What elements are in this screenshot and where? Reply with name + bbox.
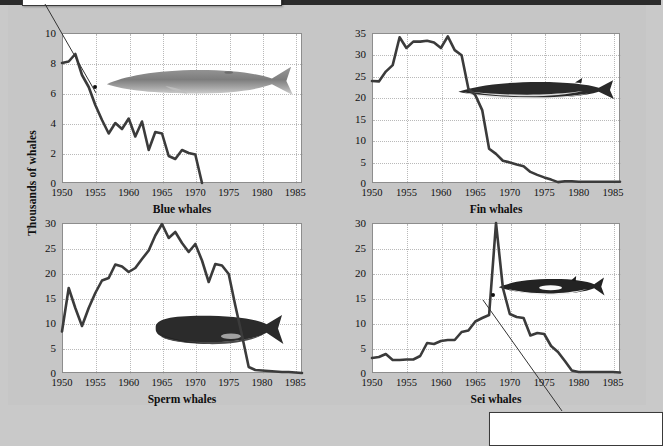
panel-title: Blue whales [62,203,302,215]
data-series-line [334,215,634,400]
chart-panel-blue-whales: 024681019501955196019651970197519801985 … [22,25,312,210]
data-series-line [334,25,634,210]
panel-title: Sei whales [372,393,620,405]
data-series-line [22,25,312,210]
chart-panel-sei-whales: 0510152025301950195519601965197019751980… [334,215,634,400]
figure-inner-background: Thousands of whales 02468101950195519601… [8,5,646,405]
panel-title: Fin whales [372,203,620,215]
panel-title: Sperm whales [62,393,302,405]
whale-catch-figure: Thousands of whales 02468101950195519601… [8,5,646,405]
bottom-right-callout[interactable] [489,412,663,446]
data-series-line [22,215,312,400]
chart-panel-sperm-whales: 0510152025301950195519601965197019751980… [22,215,312,400]
chart-panel-fin-whales: 0510152025303519501955196019651970197519… [334,25,634,210]
top-left-callout[interactable] [22,0,282,6]
